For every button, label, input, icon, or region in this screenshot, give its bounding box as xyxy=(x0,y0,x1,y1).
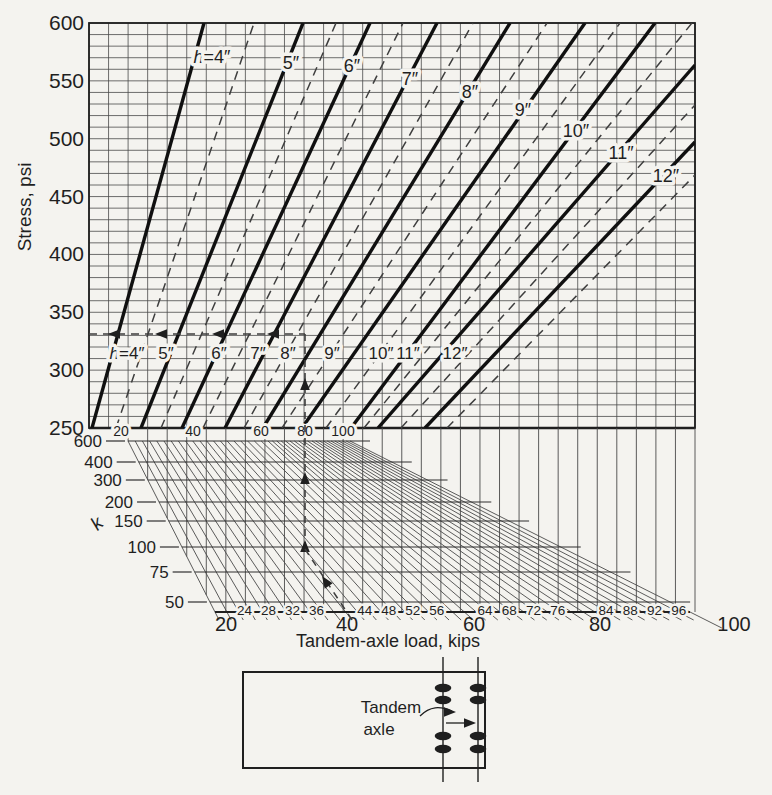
wheel-icon xyxy=(470,684,487,692)
wheel-icon xyxy=(435,684,452,692)
load-minor-label: 96 xyxy=(671,603,686,618)
h-label-top: h=4″ xyxy=(194,47,232,67)
load-minor-label: 88 xyxy=(623,603,638,618)
load-axis-title: Tandem-axle load, kips xyxy=(296,631,480,651)
load-minor-label: 56 xyxy=(429,603,444,618)
k-tick-label: 50 xyxy=(165,593,184,612)
fan-top-scale-label: 20 xyxy=(113,423,129,439)
h-label-bottom: 9″ xyxy=(324,344,339,363)
k-tick-label: 75 xyxy=(150,563,169,582)
wheel-icon xyxy=(435,732,452,740)
stress-tick-label: 300 xyxy=(49,358,84,381)
h-label-bottom: h=4″ xyxy=(110,344,145,363)
figure-container: 600550500450400350300250Stress, psih=4″h… xyxy=(0,0,772,795)
stress-tick-label: 450 xyxy=(49,185,84,208)
h-label-bottom: 8″ xyxy=(280,344,295,363)
k-tick-label: 400 xyxy=(84,453,112,472)
load-minor-label: 52 xyxy=(405,603,420,618)
k-tick-label: 300 xyxy=(93,471,121,490)
load-minor-label: 76 xyxy=(550,603,565,618)
stress-axis-title: Stress, psi xyxy=(14,163,35,252)
fan-top-scale-label: 100 xyxy=(331,423,355,439)
stress-tick-label: 550 xyxy=(49,69,84,92)
load-major-label: 100 xyxy=(717,613,750,635)
h-label-bottom: 7″ xyxy=(250,344,265,363)
load-minor-label: 48 xyxy=(381,603,396,618)
wheel-icon xyxy=(435,745,452,753)
load-minor-label: 44 xyxy=(357,603,373,618)
load-minor-label: 68 xyxy=(502,603,517,618)
k-tick-label: 200 xyxy=(105,493,133,512)
wheel-icon xyxy=(470,745,487,753)
h-label-bottom: 5″ xyxy=(158,344,173,363)
stress-tick-label: 400 xyxy=(49,242,84,265)
load-major-label: 20 xyxy=(215,613,237,635)
wheel-icon xyxy=(435,696,452,704)
load-minor-label: 32 xyxy=(285,603,300,618)
h-label-bottom: 6″ xyxy=(211,344,226,363)
h-label-bottom: 10″ xyxy=(369,344,394,363)
h-label-top: 12″ xyxy=(653,166,680,186)
h-label-bottom: 11″ xyxy=(396,344,420,363)
h-label-top: 5″ xyxy=(283,53,300,73)
h-label-top: 6″ xyxy=(344,56,361,76)
h-label-top: 7″ xyxy=(402,69,419,89)
inset-label-line2: axle xyxy=(363,720,394,739)
load-minor-label: 24 xyxy=(237,603,253,618)
h-label-bottom: 12″ xyxy=(443,344,468,363)
h-label-top: 8″ xyxy=(462,82,479,102)
pca-tandem-stress-chart: 600550500450400350300250Stress, psih=4″h… xyxy=(0,0,772,795)
inset-label-line1: Tandem xyxy=(361,698,421,717)
k-tick-label: 100 xyxy=(128,538,156,557)
stress-tick-label: 500 xyxy=(49,127,84,150)
fan-top-scale-label: 60 xyxy=(253,423,269,439)
load-minor-label: 92 xyxy=(647,603,662,618)
wheel-icon xyxy=(470,732,487,740)
load-minor-label: 36 xyxy=(309,603,324,618)
k-tick-label: 600 xyxy=(74,432,102,451)
wheel-icon xyxy=(470,696,487,704)
h-label-top: 9″ xyxy=(515,100,532,120)
stress-tick-label: 600 xyxy=(49,11,84,34)
fan-top-scale-label: 40 xyxy=(185,423,201,439)
load-minor-label: 28 xyxy=(261,603,276,618)
h-label-top: 11″ xyxy=(608,143,634,163)
h-label-top: 10″ xyxy=(563,121,590,141)
load-major-label: 80 xyxy=(589,613,611,635)
k-tick-label: 150 xyxy=(114,512,142,531)
stress-tick-label: 350 xyxy=(49,300,84,323)
load-minor-label: 72 xyxy=(526,603,541,618)
